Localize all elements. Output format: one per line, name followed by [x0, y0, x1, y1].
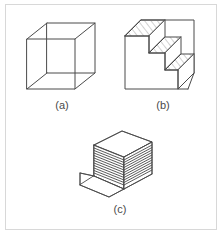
- necker-cube-drawing: [24, 19, 100, 99]
- plate-frame: (a): [5, 4, 217, 230]
- figure-plate: (a): [0, 0, 224, 238]
- figure-caption-b: (b): [122, 99, 204, 111]
- cube-back-face: [47, 23, 95, 73]
- cube-edge-top-left: [27, 23, 47, 39]
- figure-caption-a: (a): [24, 99, 100, 111]
- layer-stack-drawing: [66, 129, 174, 201]
- figure-layer-stack: [66, 129, 174, 201]
- cube-front-face: [27, 39, 75, 89]
- figure-necker-cube: [24, 19, 100, 99]
- cube-edge-bottom-right: [75, 73, 95, 89]
- figure-schroeder-staircase: [122, 17, 204, 99]
- cube-edge-top-right: [75, 23, 95, 39]
- staircase-drawing: [122, 17, 204, 99]
- cube-edge-bottom-left: [27, 73, 47, 89]
- figure-caption-c: (c): [66, 203, 174, 215]
